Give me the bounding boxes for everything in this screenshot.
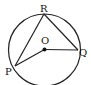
label-r: R (40, 3, 48, 14)
segment-oq (45, 50, 79, 51)
center-point (43, 48, 47, 52)
label-p: P (5, 66, 12, 77)
circle-diagram: R O Q P (0, 0, 91, 85)
label-q: Q (79, 47, 87, 58)
label-o: O (41, 35, 49, 46)
